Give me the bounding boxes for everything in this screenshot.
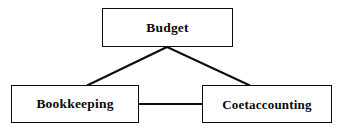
node-costaccounting: Coetaccounting	[202, 85, 332, 123]
node-budget-label: Budget	[146, 21, 188, 35]
node-bookkeeping: Bookkeeping	[11, 85, 139, 123]
diagram-canvas: Budget Bookkeeping Coetaccounting	[0, 0, 339, 129]
node-bookkeeping-label: Bookkeeping	[36, 97, 113, 111]
edge-budget-to-bookkeeping	[88, 47, 167, 85]
edge-budget-to-costaccounting	[167, 47, 249, 85]
node-budget: Budget	[102, 8, 233, 47]
node-costaccounting-label: Coetaccounting	[222, 98, 311, 111]
